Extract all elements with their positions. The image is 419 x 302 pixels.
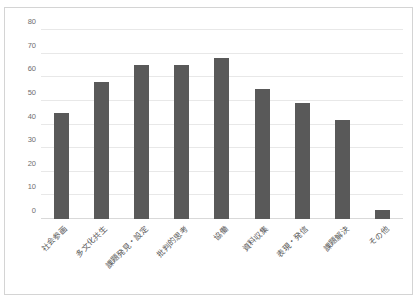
bar-slot	[323, 30, 363, 219]
bar	[295, 103, 310, 219]
x-axis-category-label: 課題解決	[320, 223, 350, 253]
y-axis-tick-label: 0	[32, 206, 36, 215]
x-label-slot: 課題解決	[323, 221, 363, 302]
bar	[54, 113, 69, 219]
x-label-slot: 協働	[202, 221, 242, 302]
x-axis-labels: 社会参画多文化共生課題発見・設定批判的思考協働資料収集表現・発信課題解決その他	[41, 221, 403, 302]
y-axis-tick-label: 50	[28, 87, 36, 96]
bar-slot	[41, 30, 81, 219]
bar	[335, 120, 350, 219]
x-axis-category-label: 社会参画	[38, 223, 68, 253]
bar-slot	[282, 30, 322, 219]
bars-group	[41, 30, 403, 219]
y-axis-tick-label: 10	[28, 182, 36, 191]
bar	[255, 89, 270, 219]
y-axis-tick-label: 80	[28, 17, 36, 26]
bar	[134, 65, 149, 219]
x-label-slot: 資料収集	[242, 221, 282, 302]
y-axis-tick-label: 60	[28, 64, 36, 73]
bar-slot	[242, 30, 282, 219]
bar-slot	[81, 30, 121, 219]
x-label-slot: 批判的思考	[162, 221, 202, 302]
x-axis-category-label: 資料収集	[240, 223, 270, 253]
x-axis-category-label: その他	[366, 223, 391, 248]
bar-slot	[202, 30, 242, 219]
plot-area: 01020304050607080	[41, 30, 403, 219]
x-label-slot: その他	[363, 221, 403, 302]
bar	[214, 58, 229, 219]
x-label-slot: 表現・発信	[282, 221, 322, 302]
chart-container: 01020304050607080 社会参画多文化共生課題発見・設定批判的思考協…	[4, 7, 413, 295]
bar	[174, 65, 189, 219]
y-axis-tick-label: 20	[28, 158, 36, 167]
x-axis-category-label: 協働	[211, 223, 230, 242]
bar-slot	[121, 30, 161, 219]
y-axis-tick-label: 40	[28, 111, 36, 120]
x-label-slot: 課題発見・設定	[121, 221, 161, 302]
bar-slot	[162, 30, 202, 219]
clipped-chart-title	[0, 0, 419, 6]
bar	[375, 210, 390, 219]
y-axis-tick-label: 70	[28, 40, 36, 49]
x-label-slot: 社会参画	[41, 221, 81, 302]
bar	[94, 82, 109, 219]
bar-slot	[363, 30, 403, 219]
y-axis-tick-label: 30	[28, 135, 36, 144]
